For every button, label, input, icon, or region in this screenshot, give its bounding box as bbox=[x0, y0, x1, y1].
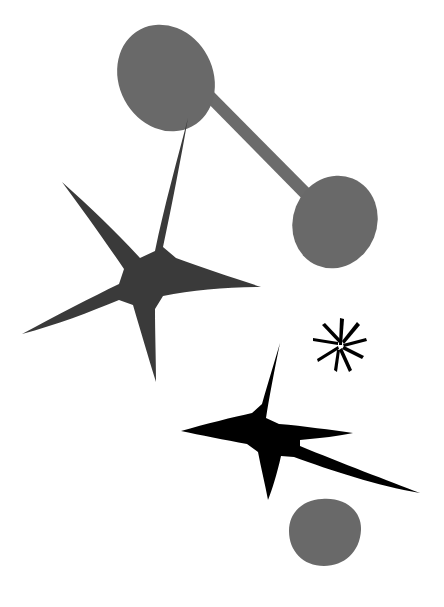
canvas-background bbox=[0, 0, 444, 607]
artwork-plate bbox=[0, 0, 444, 607]
abstract-composition-canvas bbox=[0, 0, 444, 607]
